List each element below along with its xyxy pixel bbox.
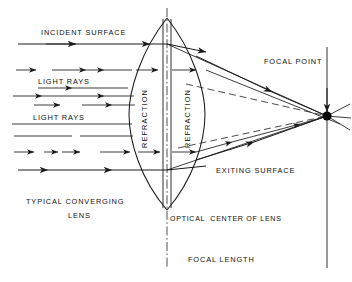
label-incident-surface: INCIDENT SURFACE [41,28,126,37]
focal-point-dot [322,111,331,120]
label-refraction-right: REFRACTION [183,89,192,148]
label-refraction-left: REFRACTION [140,89,149,148]
label-focal-length: FOCAL LENGTH [188,255,255,264]
converging-ray-lower-2b [232,124,300,142]
principal-ray-top-inside [167,44,206,52]
label-light-rays-upper: LIGHT RAYS [38,77,90,86]
lens-diagram-container: INCIDENT SURFACE LIGHT RAYS LIGHT RAYS F… [0,0,352,282]
construction-ray-dashed-lower [178,116,327,148]
label-light-rays-lower: LIGHT RAYS [33,113,85,122]
construction-ray-dashed-upper [186,84,327,116]
converging-ray-upper-2 [206,70,340,124]
label-typical-converging-lens-line1: TYPICAL CONVERGING [26,197,124,206]
label-optical-center-of-lens: OPTICAL CENTER OF LENS [170,215,282,223]
label-focal-point: FOCAL POINT [264,57,322,66]
label-typical-converging-lens-line2: LENS [68,211,91,220]
lens-diagram-svg: INCIDENT SURFACE LIGHT RAYS LIGHT RAYS F… [0,0,352,282]
optical-axis-group [163,8,171,268]
label-exiting-surface: EXITING SURFACE [216,166,295,175]
converging-rays [167,44,351,170]
